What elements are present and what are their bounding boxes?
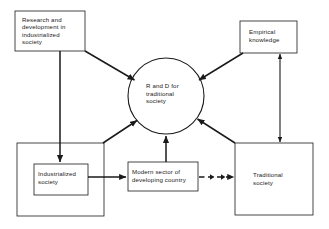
edge-industrialized-outer-to-circle: [103, 121, 137, 144]
dash-arrowhead-2: [221, 174, 225, 180]
node-traditional-society: [235, 143, 313, 215]
node-industrialized-society: [34, 164, 88, 195]
node-rd-traditional-society: [128, 58, 204, 134]
node-empirical-knowledge: [240, 21, 297, 53]
edge-rd-to-circle-diagonal: [85, 51, 135, 80]
dash-arrowhead-1: [210, 174, 214, 180]
node-research-development: [15, 11, 85, 51]
diagram-canvas: Research and development in industrializ…: [0, 0, 329, 229]
edge-empirical-to-circle: [199, 53, 243, 80]
diagram-svg: [0, 0, 329, 229]
edge-traditional-to-circle: [198, 119, 236, 143]
node-modern-sector: [128, 162, 198, 191]
